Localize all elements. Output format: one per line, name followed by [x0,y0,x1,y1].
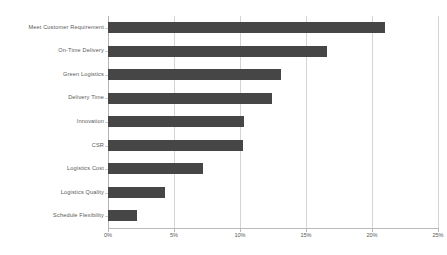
category-label: Green Logistics [4,71,104,77]
bar [108,210,137,221]
y-tick-mark [105,28,108,29]
category-label: Logistics Cost [4,165,104,171]
x-tick-label: 10% [234,232,245,238]
bar [108,187,165,198]
x-tick-label: 0% [104,232,112,238]
y-tick-mark [105,146,108,147]
bar [108,116,244,127]
x-tick-label: 5% [170,232,178,238]
category-label: Innovation [4,118,104,124]
x-tick-label: 20% [366,232,377,238]
y-tick-mark [105,98,108,99]
y-tick-mark [105,193,108,194]
bar [108,22,385,33]
x-axis-line [108,228,439,229]
category-label: Logistics Quality [4,189,104,195]
x-tick-label: 25% [432,232,443,238]
bar [108,46,327,57]
y-tick-mark [105,75,108,76]
y-tick-mark [105,51,108,52]
y-tick-mark [105,122,108,123]
category-label: CSR [4,142,104,148]
category-label: Meet Customer Requirement [4,24,104,30]
x-tick-label: 15% [300,232,311,238]
bar-chart: Meet Customer RequirementOn-Time Deliver… [0,0,447,255]
bar [108,69,281,80]
category-label: Delivery Time [4,94,104,100]
bar [108,163,203,174]
bar [108,93,272,104]
bar [108,140,243,151]
y-tick-mark [105,169,108,170]
category-label: Schedule Flexibility [4,212,104,218]
category-label: On-Time Delivery [4,47,104,53]
y-tick-mark [105,216,108,217]
